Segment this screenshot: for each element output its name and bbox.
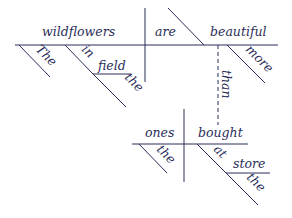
word-prep-object-2: store (233, 156, 265, 171)
word-subject-article: The (33, 42, 60, 69)
word-verb: are (155, 24, 176, 39)
word-adverb: more (243, 42, 277, 76)
sentence-diagram: wildflowers are beautiful The in field t… (0, 0, 292, 218)
word-sub-subject: ones (145, 125, 174, 140)
word-preposition-2: at (211, 142, 231, 162)
word-sub-verb: bought (198, 125, 244, 140)
word-prep-object-1-article: the (122, 70, 147, 95)
modifier-line-the-2 (93, 74, 126, 107)
word-conjunction: than (219, 70, 234, 99)
word-subject: wildflowers (42, 24, 115, 39)
word-prep-object-1: field (97, 58, 126, 73)
diagram-canvas: wildflowers are beautiful The in field t… (0, 0, 292, 218)
word-predicate: beautiful (210, 24, 267, 39)
word-preposition-1: in (79, 42, 98, 61)
